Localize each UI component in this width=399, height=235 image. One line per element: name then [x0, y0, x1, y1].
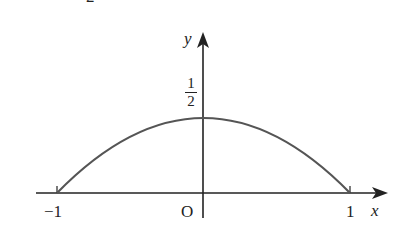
- chart-canvas: [0, 0, 399, 235]
- y-tick-half-label: 1 2: [185, 76, 197, 109]
- half-numerator: 1: [185, 76, 197, 91]
- x-tick-one-label: 1: [346, 203, 355, 220]
- y-axis-label: y: [184, 30, 192, 47]
- x-tick-neg-one-label: −1: [44, 203, 62, 220]
- half-denominator: 2: [185, 94, 197, 109]
- x-axis-label: x: [371, 202, 379, 219]
- origin-label: O: [181, 203, 193, 220]
